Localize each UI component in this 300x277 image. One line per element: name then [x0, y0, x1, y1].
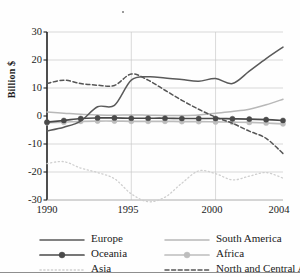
legend-label: South America	[211, 232, 282, 244]
series-marker	[61, 118, 66, 123]
series-marker	[44, 120, 49, 125]
series-marker	[129, 116, 134, 121]
legend-row: Europe South America	[0, 231, 300, 245]
series-marker	[264, 117, 269, 122]
series-line	[47, 99, 283, 115]
series-line	[47, 161, 283, 201]
legend-item-africa[interactable]: Africa	[163, 246, 244, 260]
series-marker	[213, 116, 218, 121]
series-marker	[162, 116, 167, 121]
series-lines	[44, 47, 285, 202]
legend-key-south-america	[163, 232, 211, 244]
legend-label: Europe	[86, 232, 123, 244]
series-marker	[247, 116, 252, 121]
legend-label: Oceania	[86, 247, 127, 259]
legend-key-marker	[184, 252, 190, 258]
legend-row: Oceania Africa	[0, 246, 300, 260]
series-marker	[112, 115, 117, 120]
series-marker	[280, 118, 285, 123]
chart-figure: Billion $ 30 20 10 0 -10 -20 -30 1990 19…	[0, 0, 300, 277]
series-marker	[95, 115, 100, 120]
series-marker	[78, 116, 83, 121]
series-marker	[146, 116, 151, 121]
legend-item-oceania[interactable]: Oceania	[38, 246, 127, 260]
legend-item-europe[interactable]: Europe	[38, 231, 123, 245]
legend-item-south-america[interactable]: South America	[163, 231, 282, 245]
legend-key-europe	[38, 232, 86, 244]
page-bottom-rule	[0, 272, 300, 273]
legend-label: Africa	[211, 247, 244, 259]
legend-key-africa	[163, 247, 211, 259]
series-marker	[196, 116, 201, 121]
series-marker	[230, 116, 235, 121]
legend-key-oceania	[38, 247, 86, 259]
legend-key-marker	[59, 252, 65, 258]
series-marker	[179, 116, 184, 121]
chart-legend: Europe South America Oceania Africa Asia	[0, 231, 300, 275]
